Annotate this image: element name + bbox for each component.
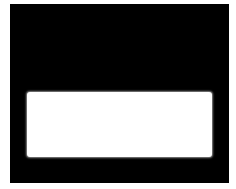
blank-panel <box>27 92 212 157</box>
dark-screen <box>10 4 229 183</box>
panel-text <box>27 92 212 157</box>
stage <box>0 0 236 189</box>
